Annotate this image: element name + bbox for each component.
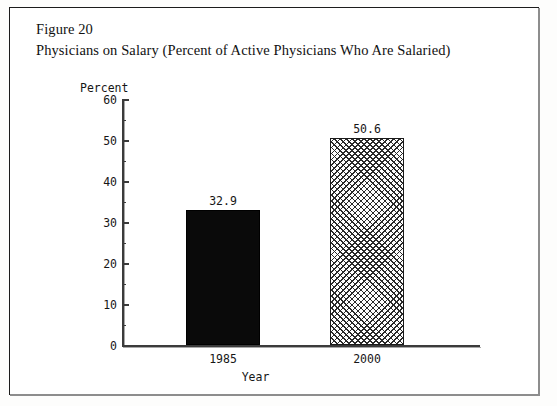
figure-page: Figure 20 Physicians on Salary (Percent … — [0, 0, 557, 406]
x-axis-title: Year — [0, 370, 557, 384]
y-tick-50 — [122, 140, 129, 142]
y-tick-minor-45 — [122, 161, 126, 162]
y-tick-label-20: 20 — [83, 257, 117, 271]
y-tick-minor-55 — [122, 120, 126, 121]
bar-1985[interactable] — [186, 210, 260, 345]
bar-2000[interactable] — [330, 138, 404, 345]
y-tick-minor-5 — [122, 325, 126, 326]
y-tick-60 — [122, 99, 129, 101]
bar-value-1985: 32.9 — [186, 194, 260, 208]
y-axis-shadow — [124, 100, 125, 347]
x-axis-title-text: Year — [242, 370, 270, 384]
x-axis-shadow — [123, 347, 481, 348]
bar-value-2000: 50.6 — [330, 122, 404, 136]
y-tick-label-0: 0 — [83, 339, 117, 353]
y-tick-10 — [122, 304, 129, 306]
x-tick-label-2000: 2000 — [330, 352, 404, 366]
bar-chart-plot: Percent 60 50 40 30 20 10 0 32.9 1985 50… — [0, 0, 557, 406]
x-tick-label-1985: 1985 — [186, 352, 260, 366]
y-tick-20 — [122, 263, 129, 265]
y-tick-label-10: 10 — [83, 298, 117, 312]
y-tick-minor-35 — [122, 202, 126, 203]
y-tick-label-60: 60 — [83, 93, 117, 107]
y-tick-30 — [122, 222, 129, 224]
x-axis-line — [122, 345, 480, 347]
y-tick-label-50: 50 — [83, 134, 117, 148]
y-tick-minor-15 — [122, 284, 126, 285]
y-tick-0 — [122, 345, 129, 347]
y-tick-minor-25 — [122, 243, 126, 244]
y-tick-40 — [122, 181, 129, 183]
y-tick-label-30: 30 — [83, 216, 117, 230]
y-tick-label-40: 40 — [83, 175, 117, 189]
